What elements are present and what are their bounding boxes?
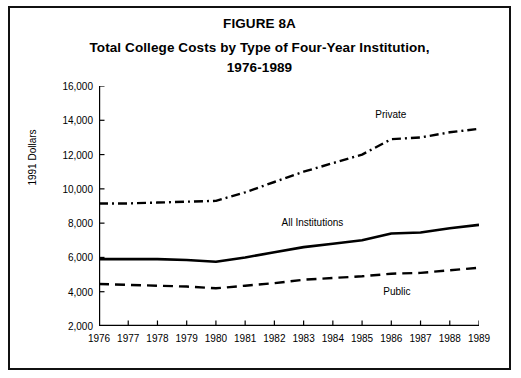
y-tick-label: 8,000 <box>47 218 93 229</box>
y-tick-label: 14,000 <box>47 115 93 126</box>
chart-svg <box>99 86 479 326</box>
series-line-private <box>99 129 479 204</box>
y-tick-label: 16,000 <box>47 81 93 92</box>
figure-title-line-2: 1976-1989 <box>8 58 511 78</box>
plot-area: 2,0004,0006,0008,00010,00012,00014,00016… <box>99 86 479 326</box>
y-tick-label: 4,000 <box>47 286 93 297</box>
series-label-public: Public <box>383 286 410 297</box>
y-axis-label: 1991 Dollars <box>27 98 38 218</box>
y-tick-label: 2,000 <box>47 321 93 332</box>
series-label-all-institutions: All Institutions <box>282 217 344 228</box>
series-line-public <box>99 268 479 289</box>
x-tick-label: 1980 <box>205 333 227 344</box>
figure-8a: FIGURE 8A Total College Costs by Type of… <box>0 0 521 378</box>
x-tick-label: 1985 <box>351 333 373 344</box>
series-line-all-institutions <box>99 225 479 262</box>
x-tick-label: 1989 <box>468 333 490 344</box>
x-tick-label: 1978 <box>146 333 168 344</box>
x-tick-label: 1983 <box>292 333 314 344</box>
figure-title-line-1: Total College Costs by Type of Four-Year… <box>8 38 511 58</box>
x-tick-label: 1986 <box>380 333 402 344</box>
x-tick-label: 1987 <box>409 333 431 344</box>
x-tick-label: 1984 <box>322 333 344 344</box>
x-tick-label: 1988 <box>439 333 461 344</box>
x-tick-label: 1982 <box>263 333 285 344</box>
x-tick-label: 1979 <box>176 333 198 344</box>
x-tick-label: 1977 <box>117 333 139 344</box>
figure-number: FIGURE 8A <box>8 14 511 34</box>
x-tick-label: 1981 <box>234 333 256 344</box>
figure-title-block: FIGURE 8A Total College Costs by Type of… <box>8 14 511 78</box>
y-tick-label: 6,000 <box>47 252 93 263</box>
series-label-private: Private <box>375 109 406 120</box>
x-tick-label: 1976 <box>88 333 110 344</box>
y-tick-label: 10,000 <box>47 183 93 194</box>
y-tick-label: 12,000 <box>47 149 93 160</box>
